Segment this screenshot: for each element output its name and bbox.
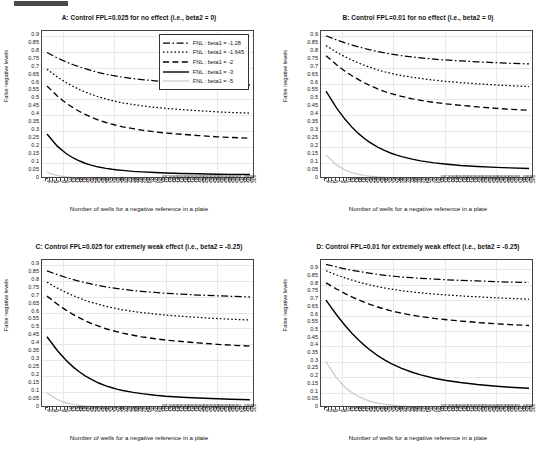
y-tick-label: 0.15 (307, 381, 318, 387)
legend-line-swatch (163, 39, 189, 47)
y-tick-label: 0.25 (28, 135, 39, 141)
y-tick-label: 0.4 (310, 342, 318, 348)
series-lines (321, 260, 532, 406)
y-axis-ticks: 0.90.850.80.750.70.650.60.550.50.450.40.… (8, 259, 39, 407)
y-tick-label: 0.5 (31, 95, 39, 101)
legend-item: FNL : beta1 = -1.645 (163, 48, 244, 58)
y-tick-label: 0.75 (307, 56, 318, 62)
y-tick-label: 0.1 (31, 388, 39, 394)
legend-label: FNL : beta1 = -2 (193, 59, 233, 65)
y-tick-label: 0.35 (307, 350, 318, 356)
y-tick-label: 0.25 (307, 135, 318, 141)
panel-c: C: Control FPL=0.025 for extremely weak … (0, 229, 278, 459)
y-tick-label: 0.7 (310, 296, 318, 302)
series-line (326, 36, 529, 64)
y-tick-label: 0.65 (28, 301, 39, 307)
y-tick-label: 0.4 (310, 111, 318, 117)
legend-line-swatch (163, 68, 189, 76)
y-tick-label: 0.25 (28, 364, 39, 370)
series-line (326, 264, 529, 282)
series-line (326, 271, 529, 299)
panel-title: A: Control FPL=0.025 for no effect (i.e.… (0, 14, 278, 21)
y-tick-label: 0.55 (307, 319, 318, 325)
y-tick-label: 0.8 (31, 277, 39, 283)
figure-panel-grid: A: Control FPL=0.025 for no effect (i.e.… (0, 0, 557, 459)
series-line (47, 271, 250, 297)
series-line (326, 46, 529, 87)
y-tick-label: 0.75 (28, 285, 39, 291)
y-tick-label: 0.1 (31, 159, 39, 165)
panel-title: C: Control FPL=0.025 for extremely weak … (0, 243, 278, 250)
y-tick-label: 0.65 (28, 72, 39, 78)
y-tick-label: 0.65 (307, 304, 318, 310)
y-tick-label: 0.6 (310, 312, 318, 318)
x-axis-title: Number of wells for a negative reference… (279, 205, 557, 212)
series-line (47, 296, 250, 346)
y-tick-label: 0.3 (310, 358, 318, 364)
y-tick-label: 0 (36, 404, 39, 410)
y-tick-label: 0 (315, 175, 318, 181)
y-tick-label: 0 (315, 404, 318, 410)
panel-title: D: Control FPL=0.01 for extremely weak e… (279, 243, 557, 250)
x-axis-title: Number of wells for a negative reference… (0, 434, 278, 441)
legend-label: FNL : beta1 = -5 (193, 78, 233, 84)
y-tick-label: 0.6 (310, 80, 318, 86)
y-tick-label: 0.85 (307, 40, 318, 46)
series-line (47, 282, 250, 320)
y-tick-label: 0.5 (31, 324, 39, 330)
series-line (326, 300, 529, 388)
series-line (326, 56, 529, 111)
series-line (47, 337, 250, 400)
y-tick-label: 0.1 (310, 389, 318, 395)
y-tick-label: 0.3 (31, 356, 39, 362)
y-tick-label: 0.05 (28, 396, 39, 402)
x-tick-label: 300 (252, 404, 257, 412)
y-tick-label: 0.9 (310, 265, 318, 271)
plot-area (320, 30, 533, 178)
y-tick-label: 0.2 (31, 143, 39, 149)
panel-a: A: Control FPL=0.025 for no effect (i.e.… (0, 0, 278, 230)
legend-line-swatch (163, 58, 189, 66)
y-tick-label: 0.7 (31, 293, 39, 299)
legend-item: FNL : beta1 = -5 (163, 76, 244, 86)
y-tick-label: 0.8 (31, 48, 39, 54)
series-line (326, 283, 529, 326)
y-tick-label: 0.9 (31, 32, 39, 38)
y-tick-label: 0.2 (31, 372, 39, 378)
y-tick-label: 0.8 (310, 48, 318, 54)
legend-label: FNL : beta1 = -1.645 (193, 49, 244, 55)
y-tick-label: 0.45 (307, 335, 318, 341)
y-tick-label: 0.35 (28, 348, 39, 354)
x-tick-label: 300 (531, 404, 536, 412)
y-tick-label: 0.25 (307, 365, 318, 371)
plot-area (320, 259, 533, 407)
y-tick-label: 0.6 (31, 309, 39, 315)
y-tick-label: 0.1 (310, 159, 318, 165)
x-axis-title: Number of wells for a negative reference… (279, 434, 557, 441)
y-tick-label: 0.6 (31, 80, 39, 86)
y-tick-label: 0.85 (307, 273, 318, 279)
legend-line-swatch (163, 77, 189, 85)
y-tick-label: 0.45 (28, 103, 39, 109)
legend: FNL : beta1 = -1.28FNL : beta1 = -1.645F… (159, 34, 249, 90)
y-tick-label: 0.05 (307, 396, 318, 402)
legend-item: FNL : beta1 = -1.28 (163, 38, 244, 48)
legend-item: FNL : beta1 = -2 (163, 57, 244, 67)
legend-label: FNL : beta1 = -3 (193, 69, 233, 75)
y-axis-ticks: 0.90.850.80.750.70.650.60.550.50.450.40.… (8, 30, 39, 178)
y-tick-label: 0.5 (310, 327, 318, 333)
y-axis-ticks: 0.90.850.80.750.70.650.60.550.50.450.40.… (287, 30, 318, 178)
y-tick-label: 0.15 (28, 151, 39, 157)
x-tick-label: 300 (252, 175, 257, 183)
series-lines (321, 31, 532, 177)
y-tick-label: 0.85 (28, 40, 39, 46)
y-tick-label: 0.15 (307, 151, 318, 157)
series-line (326, 91, 529, 168)
series-line (47, 86, 250, 138)
y-tick-label: 0.9 (310, 32, 318, 38)
y-axis-ticks: 0.90.850.80.750.70.650.60.550.50.450.40.… (287, 259, 318, 407)
y-tick-label: 0 (36, 175, 39, 181)
y-tick-label: 0.05 (28, 167, 39, 173)
y-tick-label: 0.35 (28, 119, 39, 125)
y-tick-label: 0.05 (307, 167, 318, 173)
